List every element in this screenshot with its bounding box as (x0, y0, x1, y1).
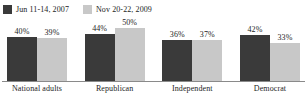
bar-national-adults-series-1[interactable] (7, 37, 37, 81)
bar-wrap-republican-series-2: 50% (115, 20, 145, 81)
legend-swatch-icon-series-1 (3, 5, 12, 14)
category-label-national-adults: National adults (2, 84, 72, 94)
chart-legend: Jun 11-14, 2007 Nov 20-22, 2009 (3, 3, 152, 15)
legend-swatch-icon-series-2 (83, 5, 92, 14)
bar-wrap-democrat-series-2: 33% (270, 20, 300, 81)
legend-label-series-2: Nov 20-22, 2009 (96, 5, 152, 14)
bar-value-republican-series-1: 44% (85, 24, 115, 33)
bar-value-democrat-series-1: 42% (240, 25, 270, 34)
bar-republican-series-1[interactable] (85, 34, 115, 81)
category-axis-labels: National adults Republican Independent D… (2, 84, 305, 94)
bar-wrap-republican-series-1: 44% (85, 20, 115, 81)
bar-value-independent-series-1: 36% (162, 30, 192, 39)
axis-baseline (2, 81, 305, 82)
bar-value-national-adults-series-2: 39% (37, 28, 67, 37)
bar-wrap-national-adults-series-2: 39% (37, 20, 67, 81)
legend-label-series-1: Jun 11-14, 2007 (16, 5, 69, 14)
bar-group-republican: 44% 50% (80, 20, 150, 81)
category-label-republican: Republican (80, 84, 150, 94)
bar-independent-series-1[interactable] (162, 40, 192, 81)
bar-democrat-series-1[interactable] (240, 35, 270, 81)
grouped-bar-chart: Jun 11-14, 2007 Nov 20-22, 2009 40% 39% (0, 0, 307, 101)
bar-value-democrat-series-2: 33% (270, 33, 300, 42)
bar-national-adults-series-2[interactable] (37, 38, 67, 81)
bar-value-independent-series-2: 37% (192, 30, 222, 39)
bar-value-national-adults-series-1: 40% (7, 27, 37, 36)
bar-independent-series-2[interactable] (192, 40, 222, 81)
legend-entry-series-2[interactable]: Nov 20-22, 2009 (83, 5, 152, 14)
category-label-independent: Independent (157, 84, 227, 94)
bar-group-independent: 36% 37% (157, 20, 227, 81)
bar-democrat-series-2[interactable] (270, 43, 300, 81)
bar-value-republican-series-2: 50% (115, 18, 145, 27)
bar-wrap-independent-series-2: 37% (192, 20, 222, 81)
bar-groups: 40% 39% 44% 50% (2, 20, 305, 81)
legend-entry-series-1[interactable]: Jun 11-14, 2007 (3, 5, 69, 14)
category-label-democrat: Democrat (235, 84, 305, 94)
bar-wrap-democrat-series-1: 42% (240, 20, 270, 81)
bar-group-democrat: 42% 33% (235, 20, 305, 81)
bar-group-national-adults: 40% 39% (2, 20, 72, 81)
bar-republican-series-2[interactable] (115, 28, 145, 81)
plot-area: 40% 39% 44% 50% (0, 20, 307, 82)
bar-wrap-independent-series-1: 36% (162, 20, 192, 81)
bar-wrap-national-adults-series-1: 40% (7, 20, 37, 81)
